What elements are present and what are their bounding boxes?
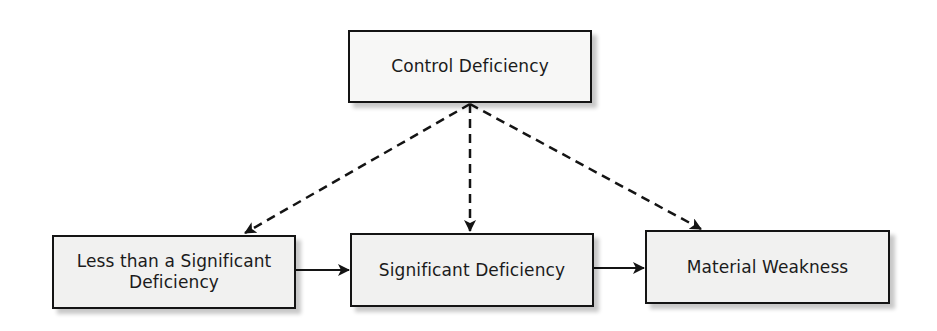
node-label: Material Weakness bbox=[687, 257, 849, 278]
node-less-than-significant-deficiency: Less than a Significant Deficiency bbox=[52, 235, 296, 309]
node-label: Less than a Significant Deficiency bbox=[77, 251, 272, 293]
node-material-weakness: Material Weakness bbox=[645, 230, 890, 304]
node-control-deficiency: Control Deficiency bbox=[348, 30, 592, 103]
control-deficiency-diagram: Control Deficiency Less than a Significa… bbox=[0, 0, 937, 331]
node-label: Significant Deficiency bbox=[379, 260, 565, 281]
dashed-arrow-to-material-weakness bbox=[470, 104, 701, 229]
node-label: Control Deficiency bbox=[391, 56, 549, 77]
node-significant-deficiency: Significant Deficiency bbox=[350, 233, 594, 307]
dashed-arrow-to-less-than-significant bbox=[245, 104, 470, 233]
